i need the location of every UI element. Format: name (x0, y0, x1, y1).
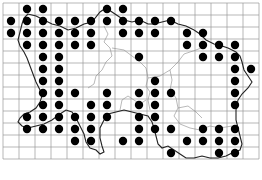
record-dot (39, 125, 47, 133)
record-dot (231, 53, 239, 61)
record-dot (55, 65, 63, 73)
record-dot (55, 77, 63, 85)
record-dot (135, 125, 143, 133)
record-dot (39, 65, 47, 73)
record-dot (23, 125, 31, 133)
record-dot (167, 125, 175, 133)
record-dot (119, 17, 127, 25)
record-dot (151, 17, 159, 25)
record-dot (87, 41, 95, 49)
record-dot (71, 29, 79, 37)
coastline (18, 8, 252, 158)
record-dot (55, 101, 63, 109)
record-dot (231, 125, 239, 133)
record-dot (231, 137, 239, 145)
record-dot (231, 41, 239, 49)
record-dot (215, 137, 223, 145)
record-dot (71, 41, 79, 49)
record-dot (39, 41, 47, 49)
record-dot (167, 17, 175, 25)
record-dot (39, 77, 47, 85)
record-dot (7, 17, 15, 25)
record-dot (39, 113, 47, 121)
record-dot (39, 101, 47, 109)
record-dot (87, 137, 95, 145)
record-dot (71, 137, 79, 145)
record-dot (87, 17, 95, 25)
record-dot (199, 53, 207, 61)
record-dot (87, 113, 95, 121)
record-dot (151, 77, 159, 85)
record-dot (135, 53, 143, 61)
record-dot (55, 125, 63, 133)
record-dot (215, 149, 223, 157)
record-dot (103, 101, 111, 109)
record-dot (103, 113, 111, 121)
record-dot (231, 101, 239, 109)
record-dot (215, 53, 223, 61)
record-dot (167, 149, 175, 157)
record-dot (183, 29, 191, 37)
record-dot (39, 17, 47, 25)
record-dot (119, 137, 127, 145)
record-dot (87, 125, 95, 133)
record-dot (151, 113, 159, 121)
record-dot (39, 29, 47, 37)
record-dot (151, 125, 159, 133)
record-dot (135, 137, 143, 145)
record-dot (135, 17, 143, 25)
record-dot (55, 41, 63, 49)
record-dot (103, 17, 111, 25)
record-dot (23, 113, 31, 121)
record-dot (199, 29, 207, 37)
record-dot (231, 89, 239, 97)
record-dot (119, 5, 127, 13)
record-dot (199, 137, 207, 145)
record-dot (71, 125, 79, 133)
record-dot (23, 29, 31, 37)
record-dot (55, 29, 63, 37)
record-dot (247, 65, 255, 73)
record-dot (55, 17, 63, 25)
record-dot (231, 77, 239, 85)
record-dot (135, 89, 143, 97)
record-dot (135, 101, 143, 109)
record-dot (199, 125, 207, 133)
record-dot (183, 41, 191, 49)
record-dot (87, 101, 95, 109)
distribution-map (0, 0, 262, 180)
record-dot (199, 41, 207, 49)
record-dot (167, 89, 175, 97)
record-dot (151, 89, 159, 97)
record-dot (151, 101, 159, 109)
record-dot (23, 41, 31, 49)
record-dot (55, 89, 63, 97)
record-dot (71, 17, 79, 25)
record-dot (135, 29, 143, 37)
record-dot (23, 17, 31, 25)
record-dot (135, 113, 143, 121)
record-dot (71, 113, 79, 121)
record-dot (215, 125, 223, 133)
record-dot (183, 137, 191, 145)
record-dot (87, 29, 95, 37)
record-dot (39, 5, 47, 13)
record-dot (23, 5, 31, 13)
record-dot (39, 89, 47, 97)
record-dot (215, 41, 223, 49)
record-dot (71, 89, 79, 97)
record-dot (103, 5, 111, 13)
record-dot (55, 113, 63, 121)
record-dot (119, 29, 127, 37)
record-dot (151, 29, 159, 37)
record-dot (7, 29, 15, 37)
record-dot (55, 53, 63, 61)
record-dot (231, 149, 239, 157)
record-dot (103, 89, 111, 97)
record-dot (39, 53, 47, 61)
record-dot (231, 65, 239, 73)
